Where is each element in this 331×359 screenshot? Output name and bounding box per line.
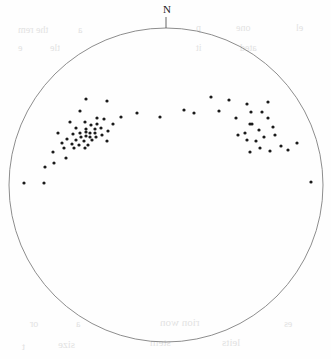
data-point <box>51 150 54 153</box>
data-point <box>182 108 185 111</box>
data-point <box>111 122 114 125</box>
data-point <box>84 127 87 130</box>
data-point <box>83 120 86 123</box>
data-point <box>234 116 237 119</box>
data-point <box>100 133 103 136</box>
data-point <box>22 181 25 184</box>
data-point <box>119 115 122 118</box>
stereonet-figure: the remaponeeletleitatedorarion wonestsi… <box>0 0 331 359</box>
data-point <box>105 139 108 142</box>
data-point <box>258 146 261 149</box>
data-point <box>84 97 87 100</box>
data-point <box>70 142 73 145</box>
data-point <box>257 128 260 131</box>
data-point <box>106 129 109 132</box>
data-point <box>56 131 59 134</box>
data-point <box>72 146 75 149</box>
data-point <box>95 122 98 125</box>
data-point <box>94 135 97 138</box>
data-point <box>83 146 86 149</box>
data-point <box>78 131 81 134</box>
data-point <box>84 130 87 133</box>
data-point <box>60 141 63 144</box>
data-point <box>158 115 161 118</box>
data-point <box>217 109 220 112</box>
data-point <box>245 102 248 105</box>
data-points-group <box>22 95 312 184</box>
data-point <box>262 135 265 138</box>
data-point <box>260 110 263 113</box>
data-point <box>88 131 91 134</box>
data-point <box>309 180 312 183</box>
data-point <box>95 116 98 119</box>
data-point <box>84 134 87 137</box>
data-point <box>286 148 289 151</box>
data-point <box>68 120 71 123</box>
data-point <box>209 95 212 98</box>
data-point <box>271 125 274 128</box>
data-point <box>74 126 77 129</box>
data-point <box>236 133 239 136</box>
data-point <box>243 131 246 134</box>
data-point <box>89 123 92 126</box>
data-point <box>249 110 252 113</box>
stereonet-plot <box>0 0 331 359</box>
data-point <box>254 139 257 142</box>
primitive-circle-group <box>9 28 323 342</box>
data-point <box>64 156 67 159</box>
data-point <box>86 143 89 146</box>
data-point <box>245 138 248 141</box>
data-point <box>62 146 65 149</box>
data-point <box>105 99 108 102</box>
data-point <box>266 100 269 103</box>
data-point <box>279 144 282 147</box>
data-point <box>93 127 96 130</box>
data-point <box>82 139 85 142</box>
data-point <box>99 126 102 129</box>
data-point <box>93 131 96 134</box>
data-point <box>192 111 195 114</box>
data-point <box>268 149 271 152</box>
data-point <box>135 111 138 114</box>
north-label: N <box>163 4 171 15</box>
data-point <box>248 122 251 125</box>
data-point <box>79 135 82 138</box>
data-point <box>266 116 269 119</box>
data-point <box>52 161 55 164</box>
data-point <box>227 98 230 101</box>
primitive-circle <box>9 28 323 342</box>
data-point <box>102 117 105 120</box>
data-point <box>248 150 251 153</box>
data-point <box>42 181 45 184</box>
data-point <box>295 141 298 144</box>
data-point <box>71 132 74 135</box>
data-point <box>74 138 77 141</box>
data-point <box>78 109 81 112</box>
data-point <box>65 137 68 140</box>
data-point <box>43 165 46 168</box>
data-point <box>273 133 276 136</box>
data-point <box>90 138 93 141</box>
data-point <box>77 143 80 146</box>
data-point <box>88 135 91 138</box>
